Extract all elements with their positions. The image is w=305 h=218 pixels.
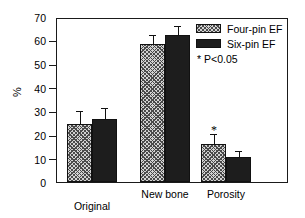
y-tick-mark-20: [49, 136, 56, 137]
y-tick-mark-30: [49, 112, 56, 113]
error-bar-cap-newbone-sixpin: [174, 26, 181, 27]
bar-new-bone-four-pin-ef: [140, 44, 165, 182]
y-tick-label-10: 10: [34, 155, 46, 165]
legend-item-four-pin-ef: Four-pin EF: [196, 22, 282, 35]
y-tick-label-30: 30: [34, 107, 46, 117]
error-bar-cap-original-fourpin: [76, 111, 83, 112]
error-bar-line-porosity-fourpin: [214, 134, 215, 144]
y-tick-label-0: 0: [40, 178, 46, 188]
legend-swatch-hatched-icon: [196, 24, 221, 33]
y-tick-mark-40: [49, 88, 56, 89]
error-bar-cap-newbone-fourpin: [149, 35, 156, 36]
y-tick-label-70: 70: [34, 13, 46, 23]
y-tick-label-20: 20: [34, 131, 46, 141]
y-tick-mark-10: [49, 159, 56, 160]
x-axis-label-original-bone-line1: Original: [74, 200, 110, 212]
legend-item-six-pin-ef: Six-pin EF: [196, 37, 282, 50]
x-axis-label-new-bone: New bone: [130, 189, 200, 201]
bar-original-bone-six-pin-ef: [92, 119, 117, 182]
bar-original-bone-four-pin-ef: [67, 124, 92, 182]
y-tick-label-40: 40: [34, 84, 46, 94]
legend-label-four-pin-ef: Four-pin EF: [227, 23, 282, 35]
x-axis-label-original-bone: Original bone: [57, 189, 127, 218]
error-bar-cap-porosity-sixpin: [235, 151, 242, 152]
legend-significance-note: * P<0.05: [197, 53, 282, 65]
error-bar-cap-porosity-fourpin: [210, 134, 217, 135]
y-tick-label-50: 50: [34, 60, 46, 70]
error-bar-line-newbone-sixpin: [178, 26, 179, 35]
error-bar-line-original-fourpin: [80, 111, 81, 124]
bar-new-bone-six-pin-ef: [165, 35, 190, 182]
error-bar-line-original-sixpin: [105, 108, 106, 119]
y-axis-title: %: [11, 81, 23, 103]
legend-swatch-solid-icon: [196, 39, 221, 48]
bar-porosity-six-pin-ef: [226, 157, 251, 182]
significance-asterisk-porosity-fourpin: *: [211, 126, 217, 134]
error-bar-cap-original-sixpin: [101, 108, 108, 109]
y-tick-label-60: 60: [34, 36, 46, 46]
bar-porosity-four-pin-ef: [201, 144, 226, 182]
y-tick-mark-60: [49, 41, 56, 42]
bar-chart-figure: % 70 60 50 40 30 20 10 0 * Original bone…: [0, 0, 305, 218]
legend-label-six-pin-ef: Six-pin EF: [227, 38, 275, 50]
x-axis-label-porosity: Porosity: [191, 189, 261, 201]
y-tick-mark-50: [49, 65, 56, 66]
legend: Four-pin EF Six-pin EF * P<0.05: [196, 22, 282, 65]
